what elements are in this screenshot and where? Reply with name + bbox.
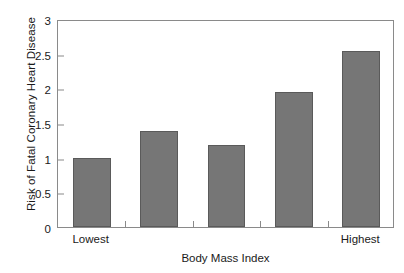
x-tick-mark — [193, 221, 194, 227]
bar — [73, 158, 111, 227]
y-tick-mark — [58, 125, 64, 126]
y-tick-mark — [58, 194, 64, 195]
x-tick-label: Lowest — [72, 232, 108, 246]
y-tick-mark — [58, 55, 64, 56]
bar — [208, 145, 246, 227]
y-tick-label: 2 — [45, 83, 58, 97]
y-tick-label: 0 — [45, 222, 58, 236]
x-tick-mark — [328, 221, 329, 227]
y-tick-label: 1 — [45, 153, 58, 167]
bar — [140, 131, 178, 227]
x-axis-title: Body Mass Index — [57, 251, 394, 265]
y-tick-mark — [58, 90, 64, 91]
y-tick-label: 1.5 — [35, 118, 58, 132]
x-tick-mark — [260, 221, 261, 227]
x-tick-mark — [125, 221, 126, 227]
y-tick-label: 0.5 — [35, 187, 58, 201]
x-tick-label: Highest — [341, 232, 380, 246]
y-tick-label: 3 — [45, 14, 58, 28]
bar — [342, 51, 380, 227]
bar — [275, 92, 313, 227]
y-tick-mark — [58, 159, 64, 160]
y-tick-label: 2.5 — [35, 49, 58, 63]
plot-area: 32.521.510.50 — [57, 20, 394, 228]
bar-chart-figure: Risk of Fatal Coronary Heart Disease 32.… — [0, 0, 404, 273]
